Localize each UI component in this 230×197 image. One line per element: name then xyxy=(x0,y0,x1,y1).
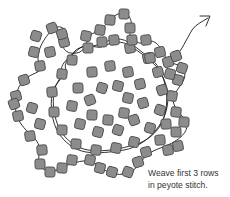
bead xyxy=(47,87,58,98)
bead xyxy=(84,94,97,107)
bead xyxy=(112,124,125,137)
bead xyxy=(84,154,96,166)
bead xyxy=(83,43,93,53)
bead xyxy=(74,118,86,130)
bead xyxy=(57,69,68,80)
caption-line-1: Weave first 3 rows xyxy=(148,168,219,180)
bead xyxy=(45,167,55,177)
bead xyxy=(171,127,181,137)
bead xyxy=(87,67,98,78)
bead xyxy=(34,60,45,71)
bead xyxy=(140,34,151,45)
bead xyxy=(106,166,118,178)
bead xyxy=(97,37,108,48)
bead xyxy=(87,110,97,120)
bead xyxy=(154,46,166,58)
bead xyxy=(26,102,38,114)
bead xyxy=(152,66,164,78)
bead xyxy=(67,55,78,66)
bead xyxy=(122,92,134,104)
bead xyxy=(73,83,83,93)
bead xyxy=(127,35,138,46)
bead xyxy=(125,23,135,33)
bead xyxy=(105,15,116,26)
bead xyxy=(112,80,124,92)
bead xyxy=(119,9,129,19)
bead xyxy=(49,107,59,117)
bead xyxy=(176,62,189,75)
bead xyxy=(110,142,122,154)
bead xyxy=(161,119,172,130)
bead xyxy=(162,144,173,155)
bead xyxy=(37,145,48,156)
bead xyxy=(172,140,184,152)
caption-line-2: in peyote stitch. xyxy=(148,180,219,192)
bead xyxy=(166,90,177,101)
bead xyxy=(94,24,105,35)
bead xyxy=(118,107,129,118)
bead xyxy=(128,114,141,127)
bead xyxy=(144,122,156,134)
bead xyxy=(66,100,77,111)
bead xyxy=(30,30,42,42)
bead xyxy=(179,117,190,128)
bead xyxy=(171,107,182,118)
bead-group xyxy=(8,9,190,179)
bead xyxy=(122,66,134,78)
bead xyxy=(80,30,92,42)
bead xyxy=(90,144,101,155)
bead xyxy=(92,126,104,138)
bead xyxy=(71,139,82,150)
instruction-caption: Weave first 3 rows in peyote stitch. xyxy=(148,168,219,191)
bead xyxy=(35,159,45,169)
bead xyxy=(109,35,120,46)
bead xyxy=(28,46,40,58)
bead xyxy=(155,135,166,146)
bead xyxy=(44,46,56,58)
bead xyxy=(96,82,108,94)
bead xyxy=(57,125,67,135)
bead xyxy=(34,118,46,130)
bead xyxy=(164,68,176,80)
bead xyxy=(94,162,106,174)
arrow-head-icon xyxy=(200,16,210,26)
bead xyxy=(134,78,146,90)
bead xyxy=(18,74,30,86)
bead xyxy=(140,146,152,158)
bead xyxy=(57,163,68,174)
bead xyxy=(104,60,115,71)
bead xyxy=(12,110,24,122)
bead xyxy=(128,136,140,148)
bead xyxy=(122,166,135,179)
bead xyxy=(144,52,156,64)
bead xyxy=(66,154,77,165)
bead xyxy=(24,130,35,141)
bead xyxy=(137,97,149,109)
bead xyxy=(103,115,114,126)
